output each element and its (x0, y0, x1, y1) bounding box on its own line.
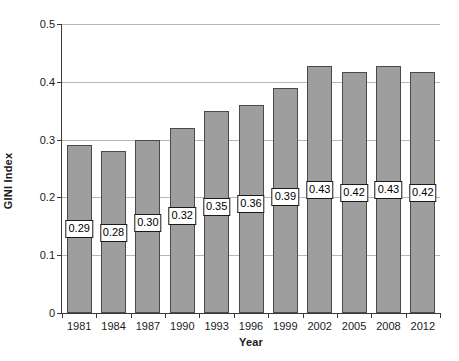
bar-value-label: 0.43 (306, 181, 333, 199)
bar-value-label: 0.35 (203, 198, 230, 216)
x-axis-category-label: 2005 (342, 320, 366, 332)
x-tick-mark (440, 313, 441, 318)
y-tick-mark (57, 82, 62, 83)
gini-index-bar-chart: GINI Index 00.10.20.30.40.50.2919810.281… (0, 0, 459, 361)
x-tick-mark (199, 313, 200, 318)
y-tick-label: 0.1 (40, 249, 55, 261)
x-axis-category-label: 1990 (170, 320, 194, 332)
y-axis-title-text: GINI Index (2, 152, 14, 208)
x-axis-title: Year (62, 336, 440, 348)
x-axis-line (61, 313, 440, 314)
x-tick-mark (234, 313, 235, 318)
y-axis-title: GINI Index (0, 0, 16, 361)
x-tick-mark (131, 313, 132, 318)
x-tick-mark (337, 313, 338, 318)
y-tick-label: 0.2 (40, 191, 55, 203)
bar-value-label: 0.42 (409, 184, 436, 202)
bar-value-label: 0.28 (100, 224, 127, 242)
x-axis-category-label: 1984 (101, 320, 125, 332)
bar-value-label: 0.43 (375, 181, 402, 199)
x-tick-mark (268, 313, 269, 318)
y-tick-mark (57, 197, 62, 198)
x-axis-category-label: 1987 (136, 320, 160, 332)
bar-value-label: 0.29 (65, 220, 92, 238)
bar-value-label: 0.36 (237, 195, 264, 213)
y-tick-mark (57, 24, 62, 25)
x-tick-mark (165, 313, 166, 318)
plot-area: 00.10.20.30.40.50.2919810.2819840.301987… (62, 24, 440, 313)
x-tick-mark (303, 313, 304, 318)
x-axis-category-label: 1999 (273, 320, 297, 332)
x-axis-category-label: 2002 (307, 320, 331, 332)
bar-value-label: 0.32 (169, 207, 196, 225)
x-tick-mark (62, 313, 63, 318)
x-axis-category-label: 1996 (239, 320, 263, 332)
y-tick-label: 0.4 (40, 76, 55, 88)
gridline (62, 24, 440, 25)
x-tick-mark (96, 313, 97, 318)
y-tick-mark (57, 255, 62, 256)
x-axis-category-label: 1981 (67, 320, 91, 332)
x-axis-category-label: 1993 (204, 320, 228, 332)
y-axis-line (61, 24, 62, 314)
bar-value-label: 0.42 (340, 184, 367, 202)
y-tick-mark (57, 140, 62, 141)
x-axis-category-label: 2008 (376, 320, 400, 332)
y-tick-label: 0 (49, 307, 55, 319)
bar-value-label: 0.39 (272, 188, 299, 206)
y-tick-label: 0.3 (40, 134, 55, 146)
x-axis-category-label: 2012 (411, 320, 435, 332)
x-tick-mark (371, 313, 372, 318)
x-tick-mark (406, 313, 407, 318)
y-tick-label: 0.5 (40, 18, 55, 30)
bar-value-label: 0.30 (134, 214, 161, 232)
